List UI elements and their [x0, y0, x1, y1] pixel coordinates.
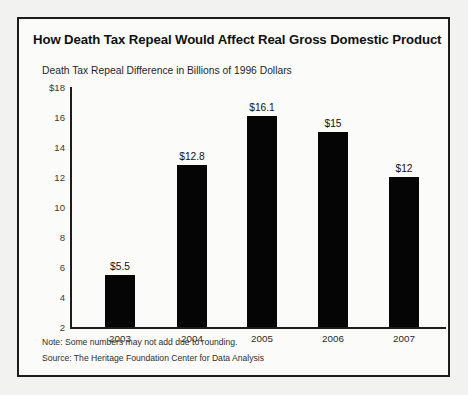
y-tick-label: 16 — [54, 112, 65, 123]
x-cat-2003: 2003 — [105, 71, 135, 327]
x-cat-2006: 2006 — [318, 71, 348, 327]
source-text: Source: The Heritage Foundation Center f… — [42, 353, 264, 363]
y-tick-label: 10 — [54, 202, 65, 213]
x-cat-2007: 2007 — [389, 71, 419, 327]
y-tick-label: 2 — [60, 322, 65, 333]
page-title: How Death Tax Repeal Would Affect Real G… — [33, 32, 441, 47]
y-axis-line — [70, 87, 72, 327]
note-text: Note: Some numbers may not add due to ro… — [42, 337, 237, 347]
y-tick-label: 4 — [60, 292, 65, 303]
x-tick-label: 2006 — [322, 333, 344, 344]
x-tick-label: 2007 — [393, 333, 415, 344]
y-tick-label: 6 — [60, 262, 65, 273]
y-tick-label: 8 — [60, 232, 65, 243]
x-cat-2005: 2005 — [247, 71, 277, 327]
y-tick-label: 12 — [54, 172, 65, 183]
x-tick-label: 2005 — [251, 333, 273, 344]
y-tick-label: $18 — [49, 82, 65, 93]
plot-area: 246810121416$18 $5.5$12.8$16.1$15$12 200… — [53, 73, 448, 329]
chart-figure: How Death Tax Repeal Would Affect Real G… — [17, 17, 450, 377]
x-axis-line — [70, 327, 446, 329]
y-tick-label: 14 — [54, 142, 65, 153]
x-cat-2004: 2004 — [177, 71, 207, 327]
